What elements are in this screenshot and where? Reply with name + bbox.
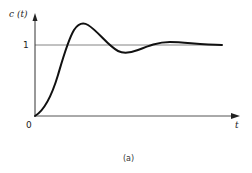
y-axis-arrow-icon xyxy=(33,13,38,21)
response-curve xyxy=(35,24,222,116)
y-tick-one: 1 xyxy=(23,40,29,50)
step-response-chart: c (t) 1 0 t (a) xyxy=(0,0,252,173)
figure-caption: (a) xyxy=(123,154,134,163)
y-axis-label: c (t) xyxy=(9,9,28,19)
x-axis-arrow-icon xyxy=(231,113,240,119)
origin-label: 0 xyxy=(26,120,32,130)
x-axis-label: t xyxy=(235,120,239,130)
